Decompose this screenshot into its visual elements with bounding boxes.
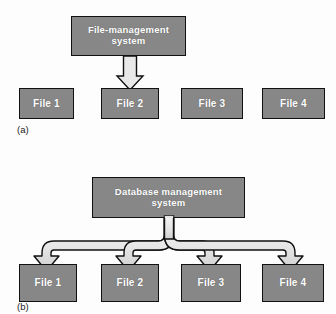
panel-a-file-box-3: File 3 xyxy=(181,88,243,119)
panel-b-file-label-3: File 3 xyxy=(198,277,225,289)
file-management-system-label-line1: File-management xyxy=(88,24,169,35)
panel-b-file-box-3: File 3 xyxy=(181,264,241,302)
figure-container: File-management system File 1 File 2 Fil… xyxy=(0,0,336,314)
database-management-system-box: Database management system xyxy=(92,177,245,218)
file-management-system-label-line2: system xyxy=(112,35,146,46)
panel-b-file-label-2: File 2 xyxy=(117,277,144,289)
file-management-system-box: File-management system xyxy=(71,16,186,56)
panel-b-file-box-4: File 4 xyxy=(262,264,324,302)
panel-a-file-label-3: File 3 xyxy=(199,98,226,110)
panel-a-file-label-1: File 1 xyxy=(33,98,60,110)
panel-a-caption: (a) xyxy=(17,124,29,135)
panel-b-file-box-2: File 2 xyxy=(101,264,159,302)
panel-a-file-box-4: File 4 xyxy=(262,88,325,119)
database-management-system-label-line1: Database management xyxy=(115,186,222,197)
panel-a-file-box-1: File 1 xyxy=(19,88,74,119)
panel-b-file-box-1: File 1 xyxy=(19,264,77,302)
panel-a-file-box-2: File 2 xyxy=(101,88,159,119)
trunk-stem xyxy=(165,216,174,239)
database-management-system-label-line2: system xyxy=(152,197,186,208)
panel-a-file-label-2: File 2 xyxy=(117,98,144,110)
panel-b-caption: (b) xyxy=(17,301,29,312)
down-arrow-icon xyxy=(117,56,143,90)
panel-b-file-label-4: File 4 xyxy=(280,277,307,289)
panel-a-file-label-4: File 4 xyxy=(280,98,307,110)
panel-b-file-label-1: File 1 xyxy=(35,277,62,289)
